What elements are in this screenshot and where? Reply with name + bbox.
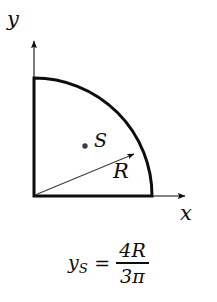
formula-equals-sign: = [93,252,111,274]
y-axis-label: y [7,9,19,30]
radius-label: R [113,161,129,182]
formula-variable: y [68,251,79,273]
formula-subscript: S [79,260,88,275]
fraction-denominator: 3π [117,266,148,286]
fraction-bar [116,262,149,264]
formula-fraction: 4R 3π [116,240,149,286]
centroid-label: S [94,131,107,150]
quarter-circle-outline [34,78,152,196]
centroid-dot [82,143,87,148]
fraction-numerator: 4R [116,240,149,260]
formula-left-hand-side: yS [68,251,88,276]
x-axis-label: x [180,203,192,224]
centroid-quarter-circle-figure: y x S R yS = 4R 3π [0,0,217,302]
centroid-formula: yS = 4R 3π [0,240,217,286]
